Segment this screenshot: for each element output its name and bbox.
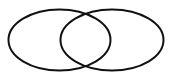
right-set-ellipse bbox=[61, 10, 164, 71]
venn-diagram bbox=[0, 0, 172, 77]
